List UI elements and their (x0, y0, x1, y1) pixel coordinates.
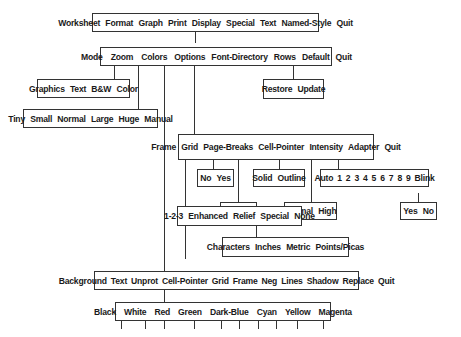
menu-item-named-style: Named-Style (281, 18, 331, 28)
mode-submenu: Graphics Text B&W Color (37, 79, 130, 98)
menu-item-replace: Replace (342, 276, 374, 286)
connector-mode (114, 66, 115, 80)
menu-item-print: Print (168, 18, 187, 28)
menu-item-blink: Blink (415, 173, 435, 183)
menu-item-none: None (294, 211, 315, 221)
menu-item-dark-blue: Dark-Blue (210, 307, 249, 317)
menu-item-options: Options (174, 52, 205, 62)
connector-opt-pagebreaks (238, 159, 239, 203)
menu-item-graphics: Graphics (29, 84, 65, 94)
menu-item-solid: Solid (252, 173, 272, 183)
menu-item-frame: Frame (151, 142, 176, 152)
connector-zoom (138, 66, 139, 110)
menu-item-no: No (423, 206, 434, 216)
menu-item-rows: Rows (274, 52, 296, 62)
menu-item-tiny: Tiny (8, 114, 25, 124)
menu-item-no: No (200, 173, 211, 183)
menu-item-9: 9 (406, 173, 411, 183)
connector-default (293, 66, 294, 80)
menu-item-white: White (124, 307, 146, 317)
menu-item-2: 2 (346, 173, 351, 183)
color-choices-menu: Black White Red Green Dark-Blue Cyan Yel… (115, 302, 331, 321)
menu-item-red: Red (154, 307, 170, 317)
zoom-submenu: Tiny Small Normal Large Huge Manual (23, 109, 158, 128)
adapter-submenu: Auto 1 2 3 4 5 6 7 8 9 Blink (320, 169, 429, 187)
menu-item-manual: Manual (144, 114, 172, 124)
menu-item-3: 3 (354, 173, 359, 183)
menu-item-quit: Quit (336, 52, 352, 62)
menu-item-text: Text (111, 276, 127, 286)
menu-item-adapter: Adapter (348, 142, 379, 152)
menu-item-cell-pointer: Cell-Pointer (258, 142, 304, 152)
menu-item-yes: Yes (217, 173, 231, 183)
menu-item-enhanced: Enhanced (188, 211, 227, 221)
colors-menu: Background Text Unprot Cell-Pointer Grid… (94, 271, 359, 290)
menu-item-shadow: Shadow (307, 276, 339, 286)
menu-item-7: 7 (389, 173, 394, 183)
menu-item-font-directory: Font-Directory (211, 52, 267, 62)
frame-submenu: 1-2-3 Enhanced Relief Special None (177, 206, 302, 226)
menu-item-display: Display (192, 18, 221, 28)
menu-item-relief: Relief (233, 211, 255, 221)
default-submenu: Restore Update (263, 79, 324, 99)
menu-item-small: Small (30, 114, 52, 124)
connector-options (194, 66, 195, 135)
menu-item-5: 5 (372, 173, 377, 183)
menu-item-quit: Quit (336, 18, 352, 28)
menu-item-default: Default (302, 52, 330, 62)
menu-item-points-picas: Points/Picas (315, 242, 364, 252)
menu-item-6: 6 (380, 173, 385, 183)
menu-item-worksheet: Worksheet (58, 18, 100, 28)
special-submenu: Characters Inches Metric Points/Picas (222, 237, 349, 257)
menu-item-green: Green (178, 307, 202, 317)
display-menu: Mode Zoom Colors Options Font-Directory … (100, 47, 332, 66)
menu-item-4: 4 (363, 173, 368, 183)
menu-item-inches: Inches (255, 242, 281, 252)
root-menu: Worksheet Format Graph Print Display Spe… (92, 13, 319, 32)
menu-item-huge: Huge (118, 114, 139, 124)
menu-item-cell-pointer: Cell-Pointer (162, 276, 208, 286)
menu-item-black: Black (94, 307, 116, 317)
menu-item-neg: Neg (262, 276, 278, 286)
grid-submenu: No Yes (197, 169, 234, 187)
menu-item-high: High (318, 206, 336, 216)
menu-item-auto: Auto (314, 173, 333, 183)
blink-submenu: Yes No (400, 202, 437, 220)
menu-item-update: Update (297, 84, 325, 94)
menu-item-text: Text (260, 18, 276, 28)
menu-item-bw: B&W (91, 84, 111, 94)
menu-item-page-breaks: Page-Breaks (203, 142, 253, 152)
menu-item-frame: Frame (233, 276, 258, 286)
menu-item-background: Background (59, 276, 107, 286)
menu-item-grid: Grid (181, 142, 198, 152)
menu-item-quit: Quit (384, 142, 400, 152)
menu-item-normal: Normal (57, 114, 85, 124)
connector-root-display (195, 31, 196, 43)
menu-item-color: Color (116, 84, 137, 94)
menu-item-1-2-3: 1-2-3 (164, 211, 183, 221)
menu-item-grid: Grid (212, 276, 229, 286)
options-menu: Frame Grid Page-Breaks Cell-Pointer Inte… (178, 134, 374, 160)
menu-item-8: 8 (397, 173, 402, 183)
menu-item-special: Special (226, 18, 255, 28)
menu-item-metric: Metric (286, 242, 310, 252)
menu-item-colors: Colors (141, 52, 167, 62)
cell-pointer-submenu: Solid Outline (253, 169, 305, 187)
menu-item-yes: Yes (403, 206, 417, 216)
menu-item-format: Format (105, 18, 133, 28)
menu-item-cyan: Cyan (257, 307, 277, 317)
connector-colors (164, 66, 165, 304)
menu-item-restore: Restore (262, 84, 293, 94)
connector-opt-intensity (311, 159, 312, 203)
menu-item-zoom: Zoom (111, 52, 134, 62)
menu-item-graph: Graph (138, 18, 162, 28)
menu-item-quit: Quit (378, 276, 394, 286)
menu-item-mode: Mode (81, 52, 103, 62)
menu-item-yellow: Yellow (285, 307, 311, 317)
menu-item-intensity: Intensity (309, 142, 343, 152)
menu-item-characters: Characters (207, 242, 250, 252)
menu-item-special: Special (260, 211, 289, 221)
menu-item-large: Large (91, 114, 113, 124)
menu-item-1: 1 (337, 173, 342, 183)
menu-item-lines: Lines (281, 276, 302, 286)
